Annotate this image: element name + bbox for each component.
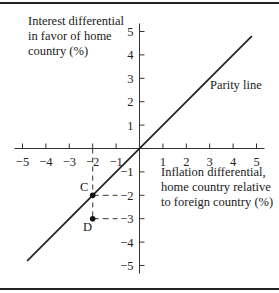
x-axis-label-line: home country relative bbox=[161, 180, 273, 195]
y-tick-label: −1 bbox=[120, 165, 133, 179]
y-tick-label: 5 bbox=[127, 25, 133, 39]
y-tick-label: −2 bbox=[120, 189, 133, 203]
x-tick-label: −5 bbox=[16, 155, 29, 169]
y-tick-label: 4 bbox=[127, 48, 134, 62]
x-tick-label: −3 bbox=[63, 155, 76, 169]
y-tick-label: 2 bbox=[127, 95, 133, 109]
y-axis-label: Interest differential in favor of home c… bbox=[28, 14, 124, 59]
x-tick-label: −4 bbox=[39, 155, 53, 169]
point-c-label: C bbox=[80, 180, 88, 195]
x-axis-label-line: Inflation differential, bbox=[161, 165, 273, 180]
parity-line-label: Parity line bbox=[210, 78, 262, 93]
y-tick-label: −4 bbox=[120, 236, 134, 250]
point-c bbox=[90, 193, 96, 199]
y-axis-label-line: country (%) bbox=[28, 44, 124, 59]
y-axis-label-line: in favor of home bbox=[28, 29, 124, 44]
y-tick-label: −5 bbox=[120, 259, 133, 273]
y-tick-label: 1 bbox=[127, 119, 133, 133]
point-d-label: D bbox=[83, 220, 92, 235]
x-axis-label: Inflation differential, home country rel… bbox=[161, 165, 273, 210]
y-tick-label: −3 bbox=[120, 212, 133, 226]
y-tick-label: 3 bbox=[127, 72, 133, 86]
y-axis-label-line: Interest differential bbox=[28, 14, 124, 29]
x-axis-label-line: to foreign country (%) bbox=[161, 195, 273, 210]
